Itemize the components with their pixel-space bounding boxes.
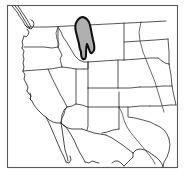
range-map-figure: Western United States xyxy=(0,0,185,182)
map-canvas xyxy=(0,0,185,182)
map-frame xyxy=(8,6,178,168)
